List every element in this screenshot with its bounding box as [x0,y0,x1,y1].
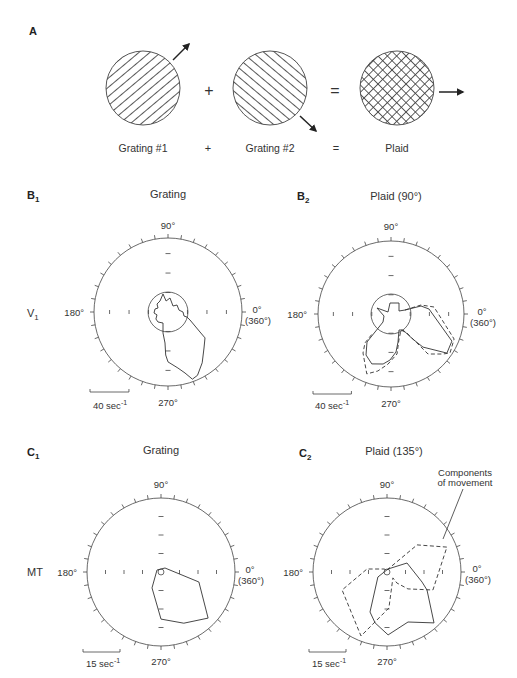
grating-2-stimulus [233,51,307,125]
plot-title: Plaid (135°) [365,445,423,457]
scale-bar-value: 40 sec [93,400,121,411]
angle-label-270: 270° [377,656,397,667]
scale-bar-exponent: -1 [114,657,120,664]
angle-label-0: 0° [472,563,481,574]
plot-title: Grating [143,444,179,456]
angle-label-360: (360°) [465,574,491,585]
panel-subscript: 2 [307,453,312,462]
angle-label-180: 180° [287,309,307,320]
scale-bar-exponent: -1 [340,657,346,664]
annotation-components-line2: of movement [438,477,493,488]
angle-label-180: 180° [64,307,84,318]
angle-label-360: (360°) [238,575,264,586]
angle-label-90: 90° [161,220,176,231]
panel-letter: B [297,190,305,202]
plot-title: Grating [150,188,186,200]
angle-label-90: 90° [384,221,399,232]
angle-label-180: 180° [57,567,77,578]
caption-grating-1: Grating #1 [118,142,167,154]
angle-label-360: (360°) [470,317,496,328]
equals-sign: = [330,82,339,99]
angle-label-270: 270° [158,397,178,408]
panel-letter: B [27,189,35,201]
angle-label-270: 270° [151,656,171,667]
caption-equals: = [333,142,339,154]
panel-subscript: 2 [305,196,310,205]
row-label-v1-sub: 1 [34,313,39,322]
scale-bar-value: 15 sec [312,658,340,669]
angle-label-270: 270° [381,398,401,409]
caption-grating-2: Grating #2 [245,142,294,154]
grating-1-stimulus [106,51,180,125]
scale-bar-exponent: -1 [121,399,127,406]
caption-plaid: Plaid [385,142,409,154]
scale-bar-value: 40 sec [315,400,343,411]
angle-label-90: 90° [380,479,395,490]
panel-subscript: 1 [35,452,40,461]
angle-label-90: 90° [154,479,169,490]
angle-label-0: 0° [245,564,254,575]
plaid-stimulus [360,51,434,125]
plot-title: Plaid (90°) [370,190,421,202]
panel-letter: C [299,447,307,459]
angle-label-0: 0° [252,304,261,315]
figure-canvas: A + = Grating #1 + Grating #2 = Plaid V1… [0,0,517,678]
panel-label-a: A [29,25,37,37]
panel-subscript: 1 [35,195,40,204]
row-label-mt: MT [27,566,43,578]
caption-plus: + [205,142,211,154]
scale-bar-value: 15 sec [86,658,114,669]
angle-label-360: (360°) [245,315,271,326]
angle-label-0: 0° [477,306,486,317]
angle-label-180: 180° [283,567,303,578]
plus-sign: + [204,82,213,99]
scale-bar-exponent: -1 [343,399,349,406]
panel-letter: C [27,446,35,458]
